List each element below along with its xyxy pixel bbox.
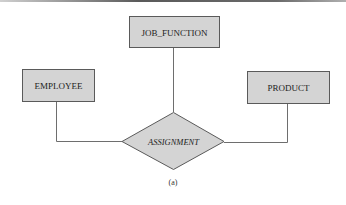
entity-product-label: PRODUCT [267, 83, 310, 93]
entity-product[interactable]: PRODUCT [248, 72, 330, 104]
er-diagram-canvas: JOB_FUNCTION EMPLOYEE PRODUCT ASSIGNMENT [0, 0, 346, 205]
figure-caption: (a) [162, 178, 184, 187]
entity-employee[interactable]: EMPLOYEE [23, 70, 95, 102]
relationship-assignment-label: ASSIGNMENT [147, 137, 200, 147]
entity-job-function[interactable]: JOB_FUNCTION [130, 17, 220, 48]
entity-employee-label: EMPLOYEE [35, 81, 83, 91]
relationship-assignment[interactable]: ASSIGNMENT [122, 113, 224, 170]
connector-employee-assignment [57, 101, 123, 142]
connector-product-assignment [224, 103, 288, 143]
entity-job-function-label: JOB_FUNCTION [141, 28, 208, 38]
